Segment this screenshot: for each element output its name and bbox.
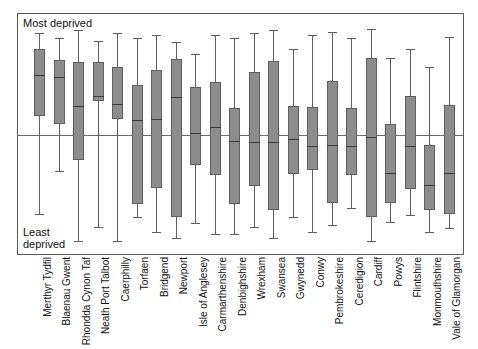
box-iqr bbox=[73, 62, 84, 160]
median-line bbox=[366, 137, 377, 138]
whisker-cap-upper bbox=[133, 38, 142, 39]
median-line bbox=[307, 146, 318, 147]
x-axis-label-text: Merthyr Tydfil bbox=[43, 257, 53, 317]
median-line bbox=[210, 127, 221, 128]
plot-area: Most deprived Least deprived bbox=[18, 14, 463, 254]
boxplot-cardiff bbox=[362, 14, 382, 254]
whisker-cap-lower bbox=[445, 228, 454, 229]
x-axis-label-text: Pembrokeshire bbox=[335, 257, 345, 324]
box-iqr bbox=[112, 67, 123, 119]
boxplot-wrexham bbox=[245, 14, 265, 254]
whisker-lower bbox=[78, 160, 79, 241]
whisker-cap-lower bbox=[152, 232, 161, 233]
whisker-lower bbox=[332, 203, 333, 225]
whisker-cap-upper bbox=[347, 38, 356, 39]
x-axis-label-text: Vale of Glamorgan bbox=[452, 257, 462, 340]
box-iqr bbox=[346, 108, 357, 175]
box-iqr bbox=[229, 108, 240, 204]
box-iqr bbox=[151, 70, 162, 189]
whisker-lower bbox=[273, 210, 274, 238]
whisker-cap-upper bbox=[35, 33, 44, 34]
plot-frame: Most deprived Least deprived bbox=[17, 13, 464, 255]
annotation-most-deprived: Most deprived bbox=[23, 17, 92, 29]
box-iqr bbox=[132, 85, 143, 204]
whisker-lower bbox=[176, 217, 177, 238]
x-axis-labels: Merthyr TydfilBlaenau GwentRhondda Cynon… bbox=[17, 255, 464, 349]
median-line bbox=[171, 97, 182, 98]
boxplot-blaenau-gwent bbox=[50, 14, 70, 254]
whisker-cap-upper bbox=[94, 41, 103, 42]
whisker-cap-lower bbox=[289, 217, 298, 218]
whisker-cap-lower bbox=[35, 214, 44, 215]
whisker-cap-lower bbox=[55, 171, 64, 172]
box-iqr bbox=[249, 72, 260, 186]
whisker-cap-lower bbox=[74, 241, 83, 242]
median-line bbox=[93, 96, 104, 97]
whisker-upper bbox=[215, 35, 216, 82]
boxplot-series bbox=[18, 14, 463, 254]
median-line bbox=[34, 75, 45, 76]
box-iqr bbox=[405, 96, 416, 189]
whisker-cap-lower bbox=[113, 241, 122, 242]
box-iqr bbox=[327, 81, 338, 203]
whisker-cap-lower bbox=[94, 227, 103, 228]
whisker-cap-lower bbox=[347, 208, 356, 209]
whisker-cap-lower bbox=[328, 225, 337, 226]
median-line bbox=[54, 77, 65, 78]
whisker-cap-upper bbox=[308, 35, 317, 36]
whisker-lower bbox=[351, 175, 352, 208]
x-axis-label-text: Carmarthenshire bbox=[218, 257, 228, 331]
boxplot-neath-port-talbot bbox=[89, 14, 109, 254]
whisker-cap-lower bbox=[425, 232, 434, 233]
box-iqr bbox=[54, 60, 65, 124]
boxplot-powys bbox=[381, 14, 401, 254]
whisker-upper bbox=[59, 38, 60, 60]
median-line bbox=[112, 104, 123, 105]
whisker-lower bbox=[156, 188, 157, 232]
whisker-cap-upper bbox=[230, 38, 239, 39]
whisker-lower bbox=[254, 186, 255, 227]
whisker-upper bbox=[137, 38, 138, 85]
x-axis-label-text: Newport bbox=[179, 257, 189, 294]
whisker-cap-lower bbox=[386, 222, 395, 223]
whisker-cap-upper bbox=[425, 67, 434, 68]
whisker-upper bbox=[449, 37, 450, 105]
median-line bbox=[288, 139, 299, 140]
whisker-lower bbox=[117, 119, 118, 241]
median-line bbox=[346, 146, 357, 147]
box-iqr bbox=[307, 107, 318, 170]
box-iqr bbox=[268, 61, 279, 210]
x-axis-label-text: Isle of Anglesey bbox=[199, 257, 209, 327]
boxplot-rhondda-cynon-taf bbox=[69, 14, 89, 254]
whisker-upper bbox=[351, 38, 352, 108]
whisker-lower bbox=[215, 175, 216, 234]
whisker-upper bbox=[98, 41, 99, 63]
whisker-cap-lower bbox=[406, 215, 415, 216]
whisker-cap-upper bbox=[250, 33, 259, 34]
whisker-lower bbox=[293, 174, 294, 218]
chart-root: Most deprived Least deprived Merthyr Tyd… bbox=[0, 0, 478, 349]
median-line bbox=[405, 146, 416, 147]
boxplot-ceredigion bbox=[342, 14, 362, 254]
box-iqr bbox=[385, 124, 396, 203]
boxplot-denbighshire bbox=[225, 14, 245, 254]
box-iqr bbox=[424, 145, 435, 210]
whisker-cap-lower bbox=[211, 234, 220, 235]
whisker-upper bbox=[78, 30, 79, 63]
median-line bbox=[190, 133, 201, 134]
whisker-upper bbox=[273, 30, 274, 61]
boxplot-bridgend bbox=[147, 14, 167, 254]
whisker-cap-upper bbox=[55, 38, 64, 39]
whisker-cap-lower bbox=[367, 241, 376, 242]
whisker-cap-upper bbox=[211, 35, 220, 36]
boxplot-vale-of-glamorgan bbox=[440, 14, 460, 254]
whisker-upper bbox=[332, 32, 333, 80]
whisker-lower bbox=[234, 204, 235, 234]
boxplot-swansea bbox=[264, 14, 284, 254]
whisker-upper bbox=[195, 54, 196, 87]
box-iqr bbox=[171, 59, 182, 218]
whisker-upper bbox=[312, 35, 313, 108]
box-iqr bbox=[288, 106, 299, 174]
x-axis-label-text: Cardiff bbox=[374, 257, 384, 286]
whisker-lower bbox=[390, 203, 391, 222]
